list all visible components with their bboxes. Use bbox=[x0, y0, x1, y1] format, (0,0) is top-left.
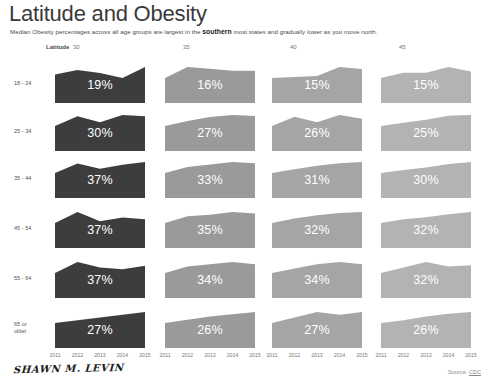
area-chart-cell[interactable]: 34% bbox=[272, 258, 362, 298]
area-chart-cell[interactable]: 15% bbox=[272, 63, 362, 103]
area-sparkline bbox=[272, 111, 362, 151]
year-tick-2012: 2012 bbox=[69, 352, 87, 358]
row-label-45-54: 45 - 54 bbox=[14, 225, 54, 232]
area-chart-cell[interactable]: 32% bbox=[381, 258, 471, 298]
year-tick-2011: 2011 bbox=[372, 352, 390, 358]
row-label-35-44: 35 - 44 bbox=[14, 175, 54, 182]
area-fill bbox=[381, 212, 471, 248]
area-chart-cell[interactable]: 27% bbox=[55, 308, 145, 348]
year-tick-2012: 2012 bbox=[179, 352, 197, 358]
area-chart-cell[interactable]: 35% bbox=[165, 208, 255, 248]
area-fill bbox=[272, 212, 362, 248]
latitude-tick-35: 35 bbox=[183, 44, 190, 50]
area-sparkline bbox=[381, 258, 471, 298]
row-label-55-64: 55 - 64 bbox=[14, 275, 54, 282]
area-chart-cell[interactable]: 37% bbox=[55, 208, 145, 248]
subtitle-text-after: most states and gradually lower as you m… bbox=[232, 28, 378, 35]
area-sparkline bbox=[165, 208, 255, 248]
area-fill bbox=[272, 312, 362, 348]
author-signature: SHAWN M. LEVIN bbox=[13, 362, 125, 375]
area-fill bbox=[55, 67, 145, 103]
year-tick-2011: 2011 bbox=[46, 352, 64, 358]
year-tick-2011: 2011 bbox=[263, 352, 281, 358]
area-chart-cell[interactable]: 37% bbox=[55, 158, 145, 198]
area-chart-cell[interactable]: 31% bbox=[272, 158, 362, 198]
area-fill bbox=[165, 115, 255, 151]
year-tick-2015: 2015 bbox=[353, 352, 371, 358]
area-chart-cell[interactable]: 34% bbox=[165, 258, 255, 298]
area-chart-cell[interactable]: 33% bbox=[165, 158, 255, 198]
area-fill bbox=[165, 212, 255, 248]
year-tick-2014: 2014 bbox=[114, 352, 132, 358]
latitude-axis-label: Latitude bbox=[46, 44, 69, 50]
area-sparkline bbox=[55, 111, 145, 151]
area-sparkline bbox=[272, 308, 362, 348]
year-tick-2015: 2015 bbox=[246, 352, 264, 358]
row-label-65-or-older: 65 orolder bbox=[14, 321, 54, 335]
page-title: Latitude and Obesity bbox=[9, 1, 207, 27]
area-fill bbox=[55, 312, 145, 348]
area-sparkline bbox=[272, 258, 362, 298]
area-chart-cell[interactable]: 26% bbox=[165, 308, 255, 348]
latitude-tick-40: 40 bbox=[290, 44, 297, 50]
year-tick-2013: 2013 bbox=[91, 352, 109, 358]
area-fill bbox=[272, 67, 362, 103]
source-credit: Source: CDC bbox=[448, 369, 481, 375]
area-chart-cell[interactable]: 26% bbox=[272, 111, 362, 151]
area-sparkline bbox=[165, 111, 255, 151]
area-chart-cell[interactable]: 27% bbox=[165, 111, 255, 151]
area-chart-cell[interactable]: 25% bbox=[381, 111, 471, 151]
area-fill bbox=[55, 115, 145, 151]
area-sparkline bbox=[55, 63, 145, 103]
subtitle-emphasis: southern bbox=[202, 28, 231, 35]
area-sparkline bbox=[381, 111, 471, 151]
area-chart-cell[interactable]: 37% bbox=[55, 258, 145, 298]
latitude-tick-30: 30 bbox=[73, 44, 80, 50]
area-sparkline bbox=[165, 63, 255, 103]
year-tick-2013: 2013 bbox=[417, 352, 435, 358]
area-sparkline bbox=[381, 158, 471, 198]
area-fill bbox=[55, 262, 145, 298]
area-fill bbox=[165, 262, 255, 298]
area-fill bbox=[55, 212, 145, 248]
year-tick-2014: 2014 bbox=[331, 352, 349, 358]
area-chart-cell[interactable]: 27% bbox=[272, 308, 362, 348]
subtitle-text-before: Median Obesity percentages across all ag… bbox=[10, 28, 202, 35]
latitude-tick-45: 45 bbox=[399, 44, 406, 50]
row-label-25-34: 25 - 34 bbox=[14, 128, 54, 135]
year-tick-2012: 2012 bbox=[395, 352, 413, 358]
area-fill bbox=[165, 312, 255, 348]
area-chart-cell[interactable]: 30% bbox=[55, 111, 145, 151]
year-tick-2015: 2015 bbox=[462, 352, 480, 358]
year-tick-2013: 2013 bbox=[201, 352, 219, 358]
area-fill bbox=[381, 312, 471, 348]
area-chart-cell[interactable]: 16% bbox=[165, 63, 255, 103]
year-tick-2012: 2012 bbox=[286, 352, 304, 358]
area-fill bbox=[272, 115, 362, 151]
area-fill bbox=[381, 115, 471, 151]
area-chart-cell[interactable]: 32% bbox=[272, 208, 362, 248]
source-prefix: Source: bbox=[448, 369, 469, 375]
year-tick-2014: 2014 bbox=[224, 352, 242, 358]
area-sparkline bbox=[272, 63, 362, 103]
area-fill bbox=[165, 67, 255, 103]
area-chart-cell[interactable]: 30% bbox=[381, 158, 471, 198]
area-sparkline bbox=[55, 158, 145, 198]
area-sparkline bbox=[55, 208, 145, 248]
area-chart-cell[interactable]: 15% bbox=[381, 63, 471, 103]
area-chart-cell[interactable]: 32% bbox=[381, 208, 471, 248]
year-tick-2013: 2013 bbox=[308, 352, 326, 358]
area-sparkline bbox=[272, 158, 362, 198]
area-sparkline bbox=[381, 308, 471, 348]
area-chart-cell[interactable]: 19% bbox=[55, 63, 145, 103]
area-fill bbox=[381, 162, 471, 198]
area-chart-cell[interactable]: 26% bbox=[381, 308, 471, 348]
area-sparkline bbox=[165, 258, 255, 298]
area-sparkline bbox=[55, 258, 145, 298]
area-fill bbox=[55, 162, 145, 198]
source-link[interactable]: CDC bbox=[469, 369, 481, 375]
row-label-18-24: 18 - 24 bbox=[14, 80, 54, 87]
year-tick-2014: 2014 bbox=[440, 352, 458, 358]
year-tick-2011: 2011 bbox=[156, 352, 174, 358]
year-tick-2015: 2015 bbox=[136, 352, 154, 358]
